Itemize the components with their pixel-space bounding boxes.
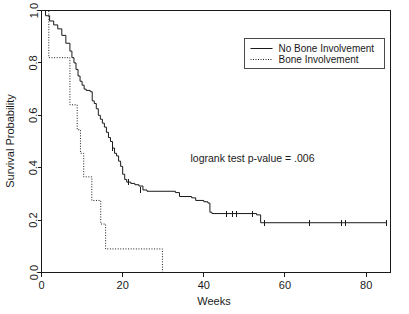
y-axis-ticks: 0.00.20.40.60.81.0: [28, 3, 42, 280]
chart-legend: No Bone InvolvementBone Involvement: [245, 39, 385, 69]
chart-canvas: 020406080 0.00.20.40.60.81.0 No Bone Inv…: [0, 0, 409, 314]
x-tick-label: 60: [279, 279, 291, 291]
y-tick-label: 0.0: [28, 265, 40, 280]
legend-label: Bone Involvement: [279, 54, 359, 65]
y-tick-label: 0.6: [28, 108, 40, 123]
x-axis-ticks: 020406080: [38, 273, 372, 291]
logrank-pvalue-text: logrank test p-value = .006: [190, 152, 314, 164]
survival-plot-figure: 020406080 0.00.20.40.60.81.0 No Bone Inv…: [0, 0, 409, 314]
pvalue-annotation: logrank test p-value = .006: [190, 152, 314, 164]
y-axis-title: Survival Probability: [4, 94, 16, 188]
x-axis-title: Weeks: [197, 295, 231, 307]
y-tick-label: 0.2: [28, 212, 40, 227]
legend-label: No Bone Involvement: [279, 43, 375, 54]
x-tick-label: 20: [117, 279, 129, 291]
x-tick-label: 80: [360, 279, 372, 291]
y-tick-label: 0.4: [28, 160, 40, 175]
curve-bone-involvement: [42, 11, 163, 273]
y-tick-label: 0.8: [28, 55, 40, 70]
y-tick-label: 1.0: [28, 3, 40, 18]
x-tick-label: 40: [198, 279, 210, 291]
